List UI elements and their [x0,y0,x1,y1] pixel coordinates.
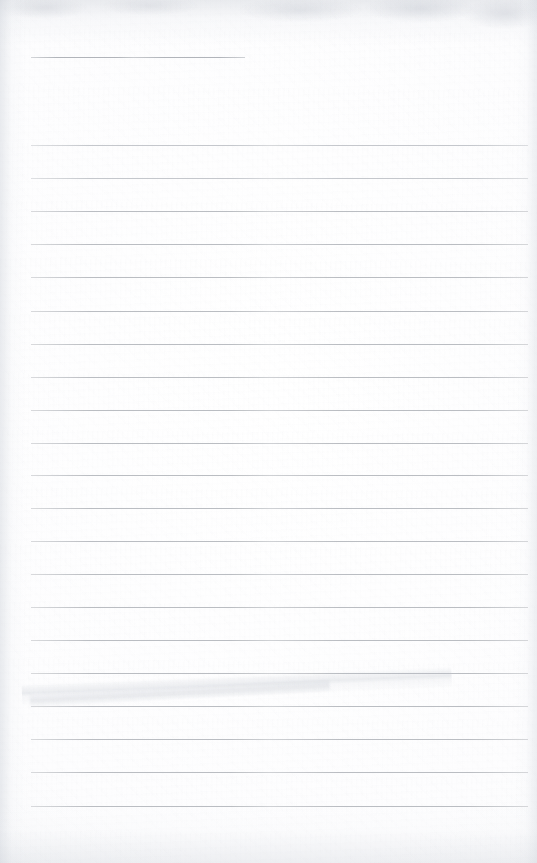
header-rule [31,57,245,58]
writing-area[interactable] [31,70,528,815]
scanned-page [0,0,537,863]
